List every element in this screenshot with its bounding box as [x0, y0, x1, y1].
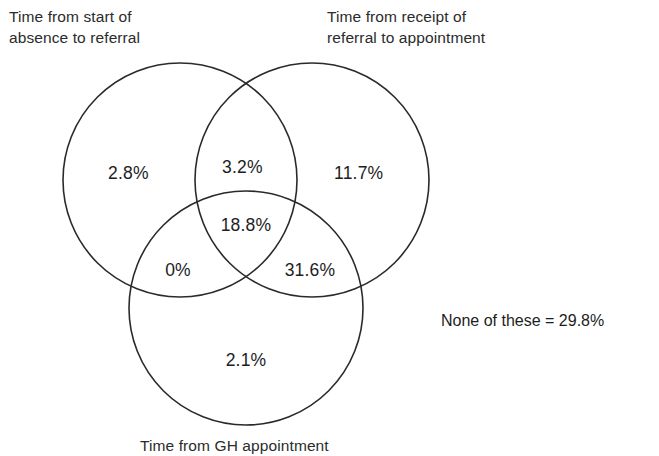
venn-value-all-three: 18.8%: [221, 215, 272, 235]
venn-value-left-bottom: 0%: [165, 260, 191, 280]
venn-value-left-only: 2.8%: [108, 163, 149, 183]
venn-value-left-right: 3.2%: [222, 157, 263, 177]
venn-set-label-left: Time from start of absence to referral: [9, 6, 239, 48]
venn-value-right-bottom: 31.6%: [285, 260, 336, 280]
venn-set-label-right: Time from receipt of referral to appoint…: [327, 6, 587, 48]
venn-annotation-none-of-these: None of these = 29.8%: [441, 311, 604, 331]
venn-value-right-only: 11.7%: [334, 163, 383, 183]
venn-value-bottom-only: 2.1%: [226, 350, 267, 370]
venn-set-label-bottom: Time from GH appointment: [140, 435, 470, 456]
